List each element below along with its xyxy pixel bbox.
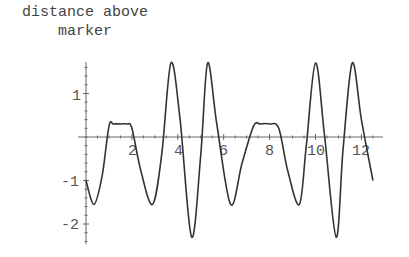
y-tick-label-neg2: -2 <box>61 217 79 234</box>
y-tick-label-1: 1 <box>72 88 81 105</box>
x-tick-label-8: 8 <box>265 143 274 160</box>
plot-area: 2 4 6 8 10 12 1 -1 -2 <box>0 0 409 257</box>
y-ticks <box>83 67 89 241</box>
x-tick-label-10: 10 <box>307 143 325 160</box>
y-tick-label-neg1: -1 <box>61 174 79 191</box>
x-tick-label-4: 4 <box>174 143 183 160</box>
